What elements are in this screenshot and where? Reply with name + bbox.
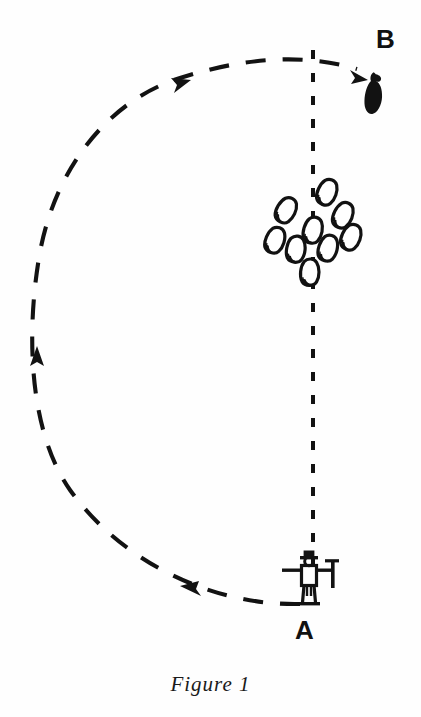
path-arrow-top bbox=[171, 78, 191, 93]
figure-drawing bbox=[0, 0, 421, 717]
path-arrow-end bbox=[350, 70, 368, 84]
point-label-b: B bbox=[376, 26, 395, 52]
figure-caption: Figure 1 bbox=[0, 672, 421, 697]
point-label-a: A bbox=[295, 617, 314, 643]
path-arrow-bottom bbox=[180, 581, 201, 596]
figure-panel: A B Figure 1 bbox=[0, 0, 421, 717]
outrun-path bbox=[32, 59, 357, 604]
shepherd-figure bbox=[282, 551, 339, 606]
